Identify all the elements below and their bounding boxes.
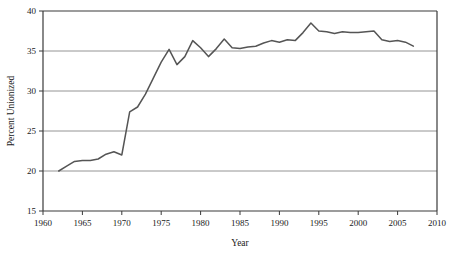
x-tick-label-1985: 1985 [231,218,250,228]
x-tick-label-1960: 1960 [34,218,53,228]
x-tick-label-1970: 1970 [113,218,132,228]
chart-figure: 152025303540 196019651970197519801985199… [0,0,453,262]
x-tick-label-2000: 2000 [349,218,368,228]
y-tick-label-35: 35 [27,46,37,56]
y-tick-label-40: 40 [27,6,37,16]
x-tick-label-1995: 1995 [310,218,329,228]
x-tick-label-1980: 1980 [192,218,211,228]
x-tick-label-2010: 2010 [428,218,447,228]
y-tick-label-25: 25 [27,126,37,136]
line-chart: 152025303540 196019651970197519801985199… [0,0,453,262]
x-tick-label-1975: 1975 [152,218,171,228]
x-tick-label-1990: 1990 [270,218,289,228]
x-tick-label-2005: 2005 [389,218,408,228]
y-tick-label-30: 30 [27,86,37,96]
x-axis-title: Year [231,238,249,248]
y-tick-label-20: 20 [27,166,37,176]
x-tick-label-1965: 1965 [73,218,92,228]
y-tick-label-15: 15 [27,206,37,216]
y-axis-title: Percent Unionized [6,76,16,147]
